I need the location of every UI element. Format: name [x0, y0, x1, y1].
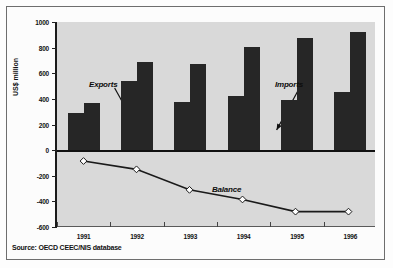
x-axis-tick — [217, 222, 218, 227]
balance-line-series — [57, 22, 375, 227]
balance-data-point — [239, 196, 246, 203]
y-axis-title: US$ million — [12, 58, 19, 96]
y-axis-tick-label: 800 — [39, 44, 49, 51]
x-axis-tick-label: 1993 — [183, 233, 197, 240]
bar-exports — [121, 81, 137, 150]
zero-baseline — [57, 150, 375, 152]
x-axis-tick-label: 1992 — [130, 233, 144, 240]
y-axis-tick-label: 400 — [39, 95, 49, 102]
y-axis-tick — [52, 99, 57, 100]
bar-imports — [244, 47, 260, 150]
x-axis-tick — [270, 222, 271, 227]
x-axis-tick-label: 1995 — [290, 233, 304, 240]
bar-exports — [228, 96, 244, 150]
bar-imports — [297, 38, 313, 150]
y-axis-tick-label: 0 — [46, 147, 49, 154]
balance-data-point — [292, 208, 299, 215]
x-axis-tick-label: 1994 — [237, 233, 251, 240]
bar-imports — [190, 64, 206, 150]
bar-exports — [68, 113, 84, 150]
balance-data-point — [80, 158, 87, 165]
y-axis-tick-label: -600 — [37, 224, 49, 231]
bar-imports — [84, 103, 100, 150]
y-axis-tick — [52, 125, 57, 126]
x-axis-line — [57, 226, 375, 227]
x-axis-tick — [324, 222, 325, 227]
x-axis-tick-label: 1996 — [343, 233, 357, 240]
x-axis-tick-label: 1991 — [77, 233, 91, 240]
y-axis-tick — [52, 73, 57, 74]
annotation-label-exports: Exports — [89, 80, 117, 89]
bar-imports — [350, 32, 366, 151]
y-axis-tick-label: 600 — [39, 70, 49, 77]
y-axis-tick — [52, 176, 57, 177]
bar-exports — [174, 102, 190, 150]
source-caption: Source: OECD CEEC/NIS database — [12, 244, 122, 251]
balance-data-point — [345, 208, 352, 215]
annotation-label-imports: Imports — [275, 80, 303, 89]
y-axis-tick — [52, 201, 57, 202]
x-axis-tick — [164, 222, 165, 227]
y-axis-tick-label: -400 — [37, 198, 49, 205]
bar-exports — [281, 100, 297, 150]
x-axis-tick — [57, 222, 58, 227]
y-axis-tick — [52, 227, 57, 228]
y-axis-tick-label: 200 — [39, 121, 49, 128]
balance-data-point — [186, 186, 193, 193]
x-axis-tick — [110, 222, 111, 227]
y-axis-tick-label: -200 — [37, 172, 49, 179]
plot-area: 10008006004002000-200-400-60019911992199… — [55, 22, 375, 227]
y-axis-tick — [52, 48, 57, 49]
y-axis-tick — [52, 22, 57, 23]
bar-imports — [137, 62, 153, 150]
balance-data-point — [133, 166, 140, 173]
annotation-label-balance: Balance — [212, 185, 241, 194]
y-axis-tick-label: 1000 — [35, 19, 49, 26]
bar-exports — [334, 92, 350, 150]
chart-figure: US$ million 10008006004002000-200-400-60… — [0, 0, 393, 268]
